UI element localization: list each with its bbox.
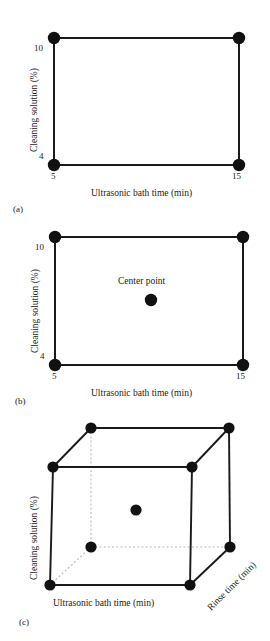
design-point-low-low xyxy=(49,359,61,371)
design-point-low-high xyxy=(48,32,60,44)
panel-a-x-axis-title: Ultrasonic bath time (min) xyxy=(91,189,192,199)
cube-hidden-edge-diagonal-front xyxy=(50,547,91,585)
panel-a-letter: (a) xyxy=(13,205,23,214)
panel-b-y-axis-title: Cleaning solution (%) xyxy=(31,269,41,353)
panel-a-plot xyxy=(0,0,270,215)
design-point-high-low xyxy=(237,359,249,371)
panel-a-y-axis-title: Cleaning solution (%) xyxy=(30,68,40,152)
cube-edge-front-left-vertical xyxy=(50,467,53,585)
panel-c-x-axis-title: Ultrasonic bath time (min) xyxy=(53,599,154,609)
cube-point-back-top-left xyxy=(85,422,96,433)
cube-edge-diagonal-bottom-right xyxy=(190,547,230,585)
design-point-high-low xyxy=(233,159,245,171)
panel-b-xtick-15: 15 xyxy=(236,372,245,381)
panel-a: 10 4 5 15 Cleaning solution (%) Ultrason… xyxy=(0,0,270,215)
cube-point-front-top-left xyxy=(47,461,58,472)
panel-b-ytick-4: 4 xyxy=(40,352,45,361)
cube-edge-front-right-vertical xyxy=(190,467,192,585)
panel-b-xtick-5: 5 xyxy=(52,372,57,381)
design-point-center xyxy=(145,294,157,306)
design-point-high-high xyxy=(237,231,249,243)
panel-a-ytick-4: 4 xyxy=(39,152,44,161)
cube-point-front-bottom-right xyxy=(184,579,195,590)
panel-a-ytick-10: 10 xyxy=(34,44,43,53)
panel-a-xtick-5: 5 xyxy=(51,172,56,181)
panel-b-x-axis-title: Ultrasonic bath time (min) xyxy=(91,389,192,399)
panel-b-ytick-10: 10 xyxy=(35,243,44,252)
panel-b: 10 4 5 15 Cleaning solution (%) Center p… xyxy=(0,215,270,410)
cube-point-front-top-right xyxy=(186,461,197,472)
panel-b-letter: (b) xyxy=(15,397,26,406)
panel-b-center-point-label: Center point xyxy=(118,277,165,287)
cube-point-front-bottom-left xyxy=(44,579,55,590)
cube-point-back-bottom-left xyxy=(85,541,96,552)
panel-c-y-axis-title: Cleaning solution (%) xyxy=(30,496,40,580)
panel-a-xtick-15: 15 xyxy=(232,172,241,181)
cube-edge-diagonal-top-left xyxy=(53,428,91,467)
cube-point-back-bottom-right xyxy=(224,541,235,552)
cube-point-center xyxy=(130,504,141,515)
figure-page: 10 4 5 15 Cleaning solution (%) Ultrason… xyxy=(0,0,270,641)
design-point-high-high xyxy=(233,32,245,44)
cube-point-back-top-right xyxy=(223,422,234,433)
design-point-low-low xyxy=(48,159,60,171)
panel-c: Cleaning solution (%) Rinse time (min) U… xyxy=(0,410,270,641)
design-point-low-high xyxy=(49,231,61,243)
cube-edge-back-right-vertical xyxy=(229,428,230,547)
panel-c-letter: (c) xyxy=(19,618,29,627)
cube-edge-diagonal-top-right xyxy=(192,428,229,467)
